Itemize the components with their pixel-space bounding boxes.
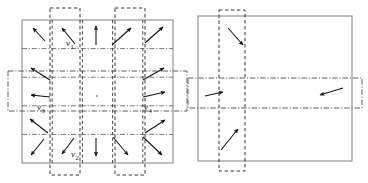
arrow-r1c1 (33, 28, 45, 41)
arrow-r1c5 (145, 27, 163, 43)
horizontal-band-middle (188, 78, 362, 108)
arrow-r4c1 (30, 119, 48, 133)
figure-canvas: v1v2v3v4 (0, 0, 368, 183)
vertical-band-right (115, 8, 145, 175)
figure-root: v1v2v3v4 (0, 0, 368, 183)
arrow-r4c5 (145, 120, 165, 133)
label-v4: v4 (144, 102, 152, 114)
coarse-grid-vector-field-panel (188, 10, 362, 171)
arrow-r5c1 (31, 139, 44, 155)
arrow-r5c4 (113, 137, 128, 155)
arrow-r1c4 (112, 28, 131, 45)
arrow-r2c5 (143, 68, 164, 80)
arrow-right-left (320, 88, 343, 95)
panels-group: v1v2v3v4 (8, 8, 362, 175)
arrow-r3c1 (31, 95, 50, 97)
label-v1: v1 (66, 38, 74, 50)
arrow-top-down-right (228, 28, 243, 45)
label-v3: v3 (37, 102, 45, 114)
arrow-r5c5 (143, 137, 162, 155)
arrow-r2c1 (31, 68, 50, 80)
arrow-r3c5 (143, 92, 165, 97)
domain-square-outline (198, 16, 352, 161)
label-v2: v2 (71, 149, 79, 161)
domain-square-outline (22, 20, 173, 163)
arrow-bottom-up-right (221, 129, 238, 150)
center-dot (96, 95, 97, 96)
fine-grid-vector-field-panel: v1v2v3v4 (8, 8, 187, 175)
arrow-left-right (205, 92, 223, 96)
